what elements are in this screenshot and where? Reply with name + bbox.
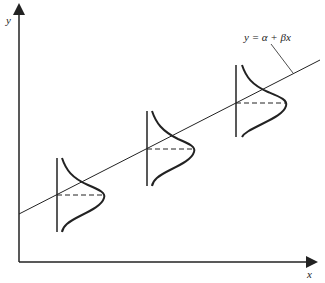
- equation-label: y = α + βx: [243, 31, 291, 43]
- distribution-middle: [147, 111, 194, 186]
- equation-leader: [271, 44, 293, 73]
- distribution-right: [236, 65, 286, 137]
- regression-diagram: y x y = α + βx: [0, 0, 325, 283]
- x-axis-label: x: [306, 268, 312, 280]
- y-axis-label: y: [5, 14, 11, 26]
- distribution-left: [57, 158, 104, 232]
- regression-line: [19, 60, 320, 214]
